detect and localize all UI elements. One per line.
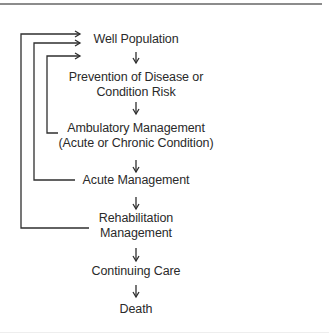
node-label: Management <box>36 226 236 241</box>
node-label: Continuing Care <box>36 264 236 279</box>
bottom-rule <box>0 332 329 333</box>
node-prevention: Prevention of Disease or Condition Risk <box>36 70 236 100</box>
node-acute-management: Acute Management <box>36 173 236 188</box>
node-ambulatory-management: Ambulatory Management (Acute or Chronic … <box>36 121 236 151</box>
node-continuing-care: Continuing Care <box>36 264 236 279</box>
node-death: Death <box>36 302 236 317</box>
node-label: Rehabilitation <box>36 211 236 226</box>
node-well-population: Well Population <box>36 32 236 47</box>
node-label: Well Population <box>36 32 236 47</box>
node-label: Ambulatory Management <box>36 121 236 136</box>
node-label: Acute Management <box>36 173 236 188</box>
node-label: Condition Risk <box>36 85 236 100</box>
node-label: (Acute or Chronic Condition) <box>36 136 236 151</box>
node-label: Prevention of Disease or <box>36 70 236 85</box>
node-label: Death <box>36 302 236 317</box>
node-rehabilitation-management: Rehabilitation Management <box>36 211 236 241</box>
connector-lines <box>0 0 329 334</box>
